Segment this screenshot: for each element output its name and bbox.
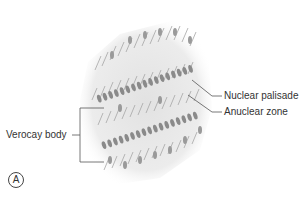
verocay-body-label: Verocay body	[6, 129, 67, 140]
nuclear-palisade-label: Nuclear palisade	[224, 90, 299, 101]
anuclear-zone-label: Anuclear zone	[224, 106, 288, 117]
panel-letter-badge: A	[8, 172, 24, 188]
